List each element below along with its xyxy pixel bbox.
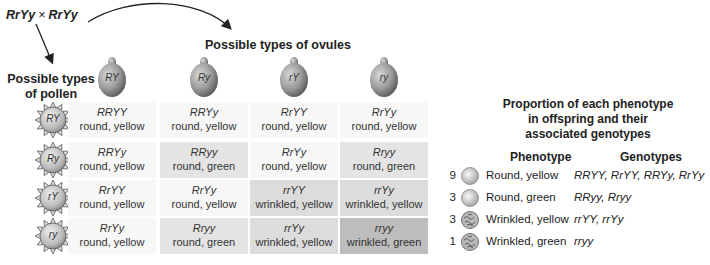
ovule-label: rY: [279, 72, 309, 83]
round-seed-icon: [460, 166, 480, 186]
cell-genotype: RrYy: [340, 105, 428, 119]
pollen-icon: Ry: [34, 141, 72, 179]
cell-phenotype: round, yellow: [250, 159, 338, 173]
wrinkled-seed-icon: [460, 232, 480, 252]
punnett-cell: Rryyround, green: [340, 142, 428, 178]
cross-operator: ×: [38, 8, 45, 22]
cell-genotype: RrYY: [68, 183, 156, 197]
cell-genotype: RRYy: [160, 105, 248, 119]
parental-cross: RrYy×RrYy: [6, 8, 78, 22]
cell-genotype: rrYy: [250, 221, 338, 235]
punnett-cell: RrYyround, yellow: [160, 180, 248, 216]
cell-phenotype: round, yellow: [68, 119, 156, 133]
pollen-label: rY: [34, 191, 72, 202]
genotypes-label: rryy: [574, 235, 593, 247]
pollen-icon: rY: [34, 179, 72, 217]
punnett-cell: rrYywrinkled, yellow: [340, 180, 428, 216]
cell-phenotype: round, green: [340, 159, 428, 173]
cell-phenotype: round, yellow: [340, 119, 428, 133]
cell-genotype: rrYY: [250, 183, 338, 197]
cell-genotype: Rryy: [340, 145, 428, 159]
ovule-icon: rY: [279, 54, 309, 98]
cell-genotype: rrYy: [340, 183, 428, 197]
cell-phenotype: round, yellow: [68, 197, 156, 211]
genotypes-label: RRYY, RrYY, RRYy, RrYy: [574, 169, 704, 181]
parent-1: RrYy: [6, 8, 35, 22]
cell-phenotype: wrinkled, yellow: [250, 235, 338, 249]
cell-phenotype: round, yellow: [68, 235, 156, 249]
punnett-cell: RrYyround, yellow: [340, 102, 428, 138]
ovule-icon: RY: [97, 54, 127, 98]
cell-genotype: RrYY: [250, 105, 338, 119]
ovules-title: Possible types of ovules: [205, 38, 351, 52]
cell-phenotype: wrinkled, yellow: [340, 197, 428, 211]
cell-phenotype: round, yellow: [160, 197, 248, 211]
phenotype-count: 9: [446, 169, 456, 181]
cell-phenotype: round, green: [160, 159, 248, 173]
cell-phenotype: round, yellow: [250, 119, 338, 133]
cell-phenotype: round, green: [160, 235, 248, 249]
cell-phenotype: round, yellow: [68, 159, 156, 173]
cell-phenotype: round, yellow: [160, 119, 248, 133]
parent-2: RrYy: [49, 8, 78, 22]
phenotype-label: Wrinkled, yellow: [486, 213, 569, 225]
ovule-label: ry: [369, 72, 399, 83]
phenotype-count: 3: [446, 191, 456, 203]
cell-genotype: RrYy: [250, 145, 338, 159]
punnett-cell: RrYyround, yellow: [68, 218, 156, 254]
pollen-icon: RY: [34, 101, 72, 139]
punnett-cell: RrYYround, yellow: [68, 180, 156, 216]
round-seed-icon: [460, 188, 480, 208]
genotypes-label: rrYY, rrYy: [574, 213, 623, 225]
cell-genotype: RRYy: [68, 145, 156, 159]
punnett-cell: rrYywrinkled, yellow: [250, 218, 338, 254]
phenotype-count: 1: [446, 235, 456, 247]
cell-phenotype: wrinkled, yellow: [250, 197, 338, 211]
punnett-cell: Rryyround, green: [160, 218, 248, 254]
pollen-label: Ry: [34, 153, 72, 164]
punnett-cell: RrYyround, yellow: [250, 142, 338, 178]
arrow-to-ovules: [88, 3, 230, 28]
cell-genotype: RRYY: [68, 105, 156, 119]
cell-phenotype: wrinkled, green: [340, 235, 428, 249]
wrinkled-seed-icon: [460, 210, 480, 230]
cell-genotype: Rryy: [160, 221, 248, 235]
punnett-cell: RRYyround, yellow: [160, 102, 248, 138]
phenotype-label: Wrinkled, green: [486, 235, 566, 247]
pollen-icon: ry: [34, 217, 72, 255]
ovule-icon: Ry: [189, 54, 219, 98]
phenotype-label: Round, yellow: [486, 169, 558, 181]
phenotype-count: 3: [446, 213, 456, 225]
cell-genotype: RrYy: [68, 221, 156, 235]
phenotype-label: Round, green: [486, 191, 556, 203]
genotypes-label: RRyy, Rryy: [574, 191, 631, 203]
ovule-icon: ry: [369, 54, 399, 98]
phenotype-header: Phenotype: [510, 150, 571, 164]
cell-genotype: rryy: [340, 221, 428, 235]
punnett-cell: rryywrinkled, green: [340, 218, 428, 254]
punnett-cell: RRyyround, green: [160, 142, 248, 178]
cell-genotype: RRyy: [160, 145, 248, 159]
punnett-cell: rrYYwrinkled, yellow: [250, 180, 338, 216]
ovule-label: RY: [97, 72, 127, 83]
pollen-label: RY: [34, 113, 72, 124]
pollen-label: ry: [34, 229, 72, 240]
genotypes-header: Genotypes: [620, 150, 682, 164]
ovule-label: Ry: [189, 72, 219, 83]
punnett-cell: RRYyround, yellow: [68, 142, 156, 178]
summary-title: Proportion of each phenotype in offsprin…: [488, 97, 688, 142]
punnett-cell: RRYYround, yellow: [68, 102, 156, 138]
pollen-title: Possible types of pollen: [6, 72, 96, 102]
cell-genotype: RrYy: [160, 183, 248, 197]
arrow-to-pollen: [36, 24, 52, 62]
punnett-cell: RrYYround, yellow: [250, 102, 338, 138]
